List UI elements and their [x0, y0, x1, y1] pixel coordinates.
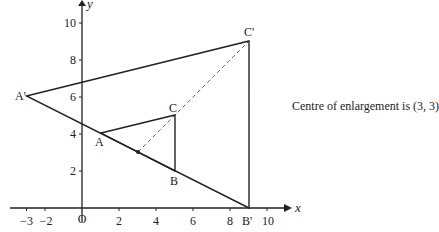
label-C: C [169, 101, 177, 115]
x-tick-label: −2 [40, 214, 53, 228]
x-axis-label: x [294, 200, 301, 215]
label-A-prime: A' [15, 89, 26, 103]
y-axis-label: y [85, 0, 93, 11]
x-tick-label: 2 [116, 214, 122, 228]
enlargement-ray [138, 41, 249, 152]
y-tick-label: 4 [70, 127, 76, 141]
centre-point [136, 150, 140, 154]
x-tick-label: 8 [227, 214, 233, 228]
x-tick-label: 10 [262, 214, 274, 228]
triangle-object [101, 115, 175, 171]
y-tick-label: 10 [64, 16, 76, 30]
label-B-prime: B' [242, 214, 252, 228]
x-axis-arrow-icon [284, 204, 292, 212]
label-A: A [95, 135, 104, 149]
y-tick-label: 8 [70, 53, 76, 67]
y-tick-label: 6 [70, 90, 76, 104]
label-C-prime: C' [244, 25, 254, 39]
origin-label: O [78, 212, 87, 226]
label-B: B [170, 174, 178, 188]
x-tick-label: 4 [153, 214, 159, 228]
x-tick-label: −3 [20, 214, 33, 228]
y-axis-arrow-icon [78, 0, 86, 6]
x-tick-label: 6 [190, 214, 196, 228]
centre-caption: Centre of enlargement is (3, 3) [292, 99, 439, 114]
axes [10, 6, 284, 222]
y-tick-label: 2 [70, 164, 76, 178]
